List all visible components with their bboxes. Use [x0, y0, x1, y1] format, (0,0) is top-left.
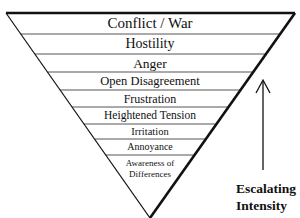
level-awareness-of-differences: Awareness of — [0, 159, 300, 168]
level-conflict-war: Conflict / War — [0, 16, 300, 31]
level-irritation: Irritation — [0, 127, 300, 138]
level-open-disagreement: Open Disagreement — [0, 75, 300, 88]
level-annoyance: Annoyance — [0, 142, 300, 152]
level-heightened-tension: Heightened Tension — [0, 110, 300, 122]
intensity-label: Intensity — [236, 199, 287, 213]
level-awareness-of-differences-line2: Differences — [0, 170, 300, 179]
level-frustration: Frustration — [0, 93, 300, 105]
level-anger: Anger — [0, 57, 300, 71]
escalating-label: Escalating — [236, 182, 296, 196]
level-hostility: Hostility — [0, 37, 300, 51]
